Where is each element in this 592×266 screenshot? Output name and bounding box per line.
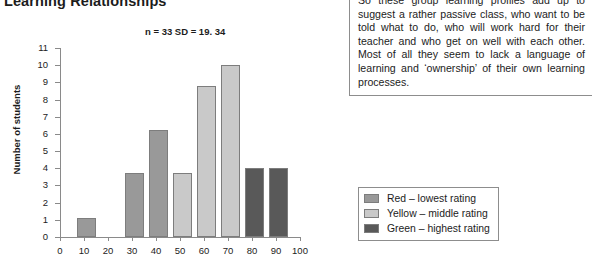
- bar: [245, 168, 264, 237]
- y-axis-tick: 6: [55, 134, 60, 135]
- legend-row: Red – lowest rating: [364, 191, 490, 206]
- y-axis-tick-label: 0: [43, 231, 48, 242]
- y-axis-tick: 3: [55, 185, 60, 186]
- x-axis-tick: [132, 237, 133, 241]
- bar: [197, 86, 216, 237]
- x-axis-tick-label: 60: [192, 245, 216, 256]
- y-axis-tick-label: 5: [43, 145, 48, 156]
- y-axis-tick: 10: [55, 65, 60, 66]
- bar: [269, 168, 288, 237]
- y-axis-tick-label: 3: [43, 179, 48, 190]
- y-axis-tick: 5: [55, 151, 60, 152]
- bar-chart: n = 33 SD = 19. 34 Number of students 11…: [0, 20, 330, 266]
- x-axis-tick-label: 80: [240, 245, 264, 256]
- y-axis-tick-label: 1: [43, 214, 48, 225]
- y-axis-tick-label: 11: [38, 42, 48, 53]
- x-axis-tick: [252, 237, 253, 241]
- legend-row: Yellow – middle rating: [364, 206, 490, 221]
- legend-label: Yellow – middle rating: [387, 208, 488, 220]
- legend-color-swatch: [364, 224, 379, 233]
- chart-statistics-annotation: n = 33 SD = 19. 34: [145, 26, 225, 37]
- x-axis-tick: [276, 237, 277, 241]
- x-axis-tick: [108, 237, 109, 241]
- legend-color-swatch: [364, 209, 379, 218]
- legend-row: Green – highest rating: [364, 221, 490, 236]
- x-axis-tick: [156, 237, 157, 241]
- y-axis-line: [60, 48, 61, 237]
- x-axis-tick-label: 100: [288, 245, 312, 256]
- x-axis-tick: [60, 237, 61, 241]
- page-title: Learning Relationships: [4, 0, 167, 9]
- x-axis-tick-label: 50: [168, 245, 192, 256]
- y-axis-tick: 2: [55, 203, 60, 204]
- legend-label: Green – highest rating: [387, 223, 490, 235]
- commentary-text: So these group learning profiles add up …: [358, 0, 585, 89]
- y-axis-tick: 11: [55, 48, 60, 49]
- y-axis-tick: 8: [55, 100, 60, 101]
- x-axis-tick: [84, 237, 85, 241]
- y-axis-tick-label: 9: [43, 76, 48, 87]
- x-axis-tick-label: 40: [144, 245, 168, 256]
- y-axis-tick: 9: [55, 82, 60, 83]
- y-axis-tick: 1: [55, 220, 60, 221]
- bar: [77, 218, 96, 237]
- bar: [125, 173, 144, 237]
- y-axis-tick-label: 6: [43, 128, 48, 139]
- bar: [149, 130, 168, 237]
- y-axis-tick-label: 4: [43, 162, 48, 173]
- x-axis-tick-label: 70: [216, 245, 240, 256]
- x-axis-tick: [300, 237, 301, 241]
- y-axis-tick-label: 10: [37, 59, 48, 70]
- bar: [221, 65, 240, 237]
- commentary-box: So these group learning profiles add up …: [349, 0, 592, 96]
- y-axis-tick: 7: [55, 117, 60, 118]
- x-axis-tick: [228, 237, 229, 241]
- y-axis-title: Number of students: [11, 70, 22, 190]
- y-axis-tick-label: 2: [43, 197, 48, 208]
- legend-label: Red – lowest rating: [387, 193, 476, 205]
- x-axis-tick-label: 30: [120, 245, 144, 256]
- bar: [173, 173, 192, 237]
- plot-area: 11109876543210 0102030405060708090100: [60, 48, 300, 237]
- y-axis-tick-label: 8: [43, 94, 48, 105]
- x-axis-tick-label: 20: [96, 245, 120, 256]
- x-axis-tick-label: 90: [264, 245, 288, 256]
- x-axis-tick: [180, 237, 181, 241]
- x-axis-tick-label: 10: [72, 245, 96, 256]
- y-axis-tick-label: 7: [43, 111, 48, 122]
- y-axis-tick: 4: [55, 168, 60, 169]
- x-axis-tick: [204, 237, 205, 241]
- x-axis-tick-label: 0: [48, 245, 72, 256]
- chart-legend: Red – lowest ratingYellow – middle ratin…: [358, 187, 499, 241]
- legend-color-swatch: [364, 194, 379, 203]
